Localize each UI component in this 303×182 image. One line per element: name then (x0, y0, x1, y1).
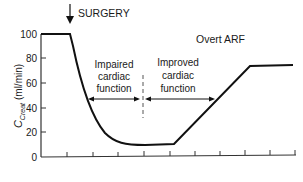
y-label-unit: (ml/min) (13, 64, 24, 100)
axes (41, 34, 296, 157)
impaired-phase-label: Impaired cardiac function (95, 59, 134, 94)
svg-text:cardiac: cardiac (98, 71, 130, 82)
surgery-arrow-icon (66, 4, 74, 24)
overt-arf-label: Overt ARF (196, 33, 245, 45)
y-axis-label: CCreat(ml/min) (12, 64, 26, 128)
svg-text:Improved: Improved (157, 57, 199, 68)
y-tick-0: 0 (31, 152, 37, 163)
improved-span-arrow-icon (145, 97, 215, 102)
y-tick-80: 80 (26, 53, 38, 64)
y-ticks (41, 34, 46, 132)
svg-text:function: function (96, 83, 131, 94)
x-axis (41, 155, 296, 157)
y-tick-20: 20 (26, 127, 38, 138)
y-tick-100: 100 (20, 29, 37, 40)
impaired-span-arrow-icon (88, 97, 140, 102)
improved-phase-label: Improved cardiac function (157, 57, 199, 94)
y-tick-60: 60 (26, 78, 38, 89)
y-label-sub: Creat (19, 102, 26, 120)
svg-text:Impaired: Impaired (95, 59, 134, 70)
chart: 100 80 60 40 20 0 CCreat(ml/min) SURGERY… (0, 0, 303, 182)
svg-text:cardiac: cardiac (162, 70, 194, 81)
y-label-c: C (12, 120, 24, 128)
svg-text:CCreat(ml/min): CCreat(ml/min) (12, 64, 26, 128)
y-tick-40: 40 (26, 103, 38, 114)
surgery-label: SURGERY (78, 7, 130, 19)
svg-text:function: function (160, 83, 195, 94)
